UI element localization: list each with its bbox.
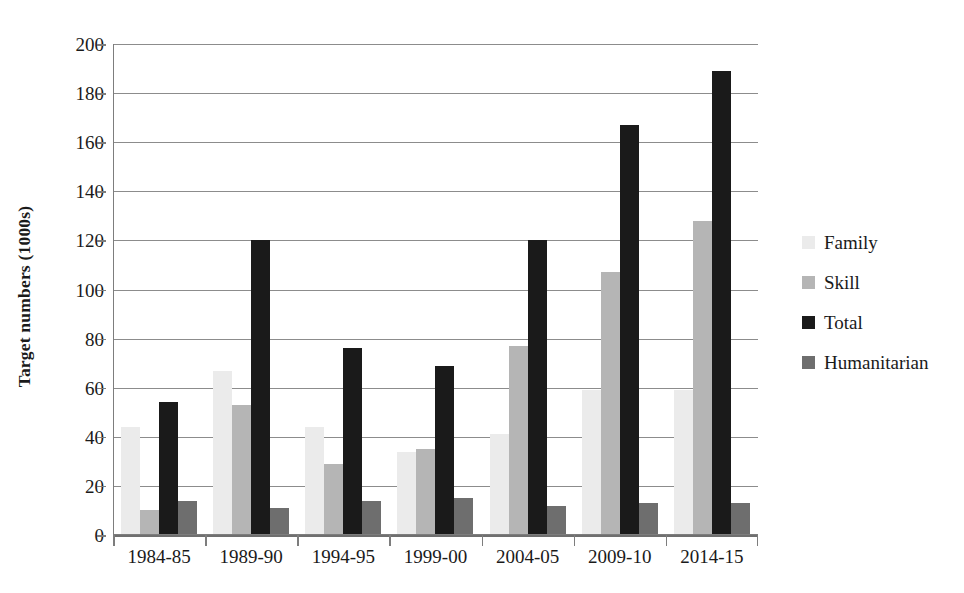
x-axis-tick-mark (757, 535, 759, 546)
x-axis-tick-mark (666, 535, 668, 546)
y-axis-tick-label: 100 (16, 280, 104, 299)
x-axis-label: 1999-00 (389, 547, 481, 581)
y-axis-tick-mark (97, 191, 106, 193)
legend-item-skill[interactable]: Skill (802, 262, 962, 302)
legend: FamilySkillTotalHumanitarian (802, 222, 962, 382)
y-axis-tick-label: 0 (16, 526, 104, 545)
y-axis-tick-mark (97, 535, 106, 537)
legend-swatch-icon (802, 276, 815, 289)
y-axis-tick-mark (97, 142, 106, 144)
y-axis-tick-mark (97, 290, 106, 292)
x-axis-tick-mark (574, 535, 576, 546)
y-axis-tick-mark (97, 486, 106, 488)
x-axis-label: 2009-10 (574, 547, 666, 581)
y-axis-tick-label: 60 (16, 378, 104, 397)
legend-swatch-icon (802, 236, 815, 249)
y-axis-tick-mark (97, 339, 106, 341)
y-axis-tick-mark (97, 240, 106, 242)
y-axis-tick-label: 140 (16, 182, 104, 201)
x-axis-tick-mark (297, 535, 299, 546)
x-axis-tick-mark (205, 535, 207, 546)
legend-item-label: Humanitarian (824, 353, 928, 372)
x-axis-label: 1984-85 (113, 547, 205, 581)
y-axis-tick-label: 160 (16, 133, 104, 152)
x-axis-label: 2014-15 (666, 547, 758, 581)
legend-item-label: Total (824, 313, 863, 332)
y-axis-tick-label: 80 (16, 329, 104, 348)
y-axis-tick-mark (97, 437, 106, 439)
x-axis-label: 1989-90 (205, 547, 297, 581)
legend-item-label: Family (824, 233, 878, 252)
y-axis-tick-label: 20 (16, 476, 104, 495)
plot-frame (113, 44, 758, 535)
y-axis-tick-mark (97, 44, 106, 46)
y-axis-tick-label: 40 (16, 427, 104, 446)
y-axis-tick-label: 180 (16, 84, 104, 103)
y-axis-tick-mark (97, 93, 106, 95)
legend-swatch-icon (802, 356, 815, 369)
legend-item-humanitarian[interactable]: Humanitarian (802, 342, 962, 382)
legend-item-total[interactable]: Total (802, 302, 962, 342)
x-axis-labels: 1984-851989-901994-951999-002004-052009-… (113, 547, 758, 581)
x-axis-tick-mark (482, 535, 484, 546)
x-axis-label: 1994-95 (297, 547, 389, 581)
x-axis-tick-mark (113, 535, 115, 546)
y-axis-tick-mark (97, 388, 106, 390)
x-axis-tick-mark (389, 535, 391, 546)
legend-item-label: Skill (824, 273, 860, 292)
plot-area (113, 44, 758, 535)
x-axis-label: 2004-05 (482, 547, 574, 581)
y-axis-tick-label: 120 (16, 231, 104, 250)
legend-item-family[interactable]: Family (802, 222, 962, 262)
legend-swatch-icon (802, 316, 815, 329)
y-axis-tick-group: 020406080100120140160180200 (0, 44, 104, 535)
y-axis-tick-label: 200 (16, 35, 104, 54)
bar-chart: Target numbers (1000s) 02040608010012014… (0, 0, 964, 593)
